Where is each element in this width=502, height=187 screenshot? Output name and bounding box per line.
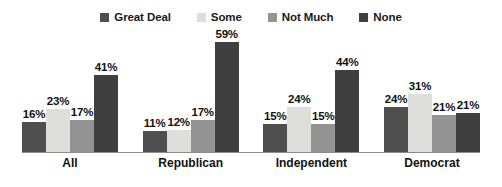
bar-value-label: 17% bbox=[191, 107, 213, 118]
bar-column[interactable]: 15% bbox=[311, 36, 335, 152]
bar-column[interactable]: 44% bbox=[335, 36, 359, 152]
bar[interactable] bbox=[335, 70, 359, 152]
legend-swatch-none bbox=[359, 13, 368, 22]
bar-value-label: 11% bbox=[144, 118, 166, 129]
bar-column[interactable]: 16% bbox=[22, 36, 46, 152]
bar[interactable] bbox=[287, 107, 311, 152]
bar[interactable] bbox=[456, 113, 480, 152]
legend-item-great-deal: Great Deal bbox=[100, 12, 171, 23]
bar-column[interactable]: 21% bbox=[456, 36, 480, 152]
bar-value-label: 24% bbox=[288, 94, 310, 105]
bar[interactable] bbox=[143, 131, 167, 152]
x-axis-label: Democrat bbox=[384, 156, 480, 170]
bar-value-label: 59% bbox=[215, 29, 237, 40]
bar-column[interactable]: 11% bbox=[143, 36, 167, 152]
bar-column[interactable]: 12% bbox=[167, 36, 191, 152]
legend-swatch-great-deal bbox=[100, 13, 109, 22]
legend-label-not-much: Not Much bbox=[282, 12, 334, 23]
legend-swatch-some bbox=[197, 13, 206, 22]
bar[interactable] bbox=[215, 42, 239, 152]
bar-value-label: 24% bbox=[385, 94, 407, 105]
bar-group: 11%12%17%59% bbox=[143, 36, 239, 152]
bar[interactable] bbox=[432, 115, 456, 152]
x-axis-label: Republican bbox=[143, 156, 239, 170]
bar-value-label: 31% bbox=[409, 81, 431, 92]
bar-column[interactable]: 23% bbox=[46, 36, 70, 152]
bar[interactable] bbox=[46, 109, 70, 152]
bar[interactable] bbox=[94, 75, 118, 152]
legend-label-none: None bbox=[373, 12, 401, 23]
bar-column[interactable]: 59% bbox=[215, 36, 239, 152]
bar-column[interactable]: 31% bbox=[408, 36, 432, 152]
bar-value-label: 15% bbox=[264, 111, 286, 122]
legend-item-not-much: Not Much bbox=[268, 12, 334, 23]
bar[interactable] bbox=[311, 124, 335, 152]
bar-chart: Great Deal Some Not Much None 16%23%17%4… bbox=[0, 0, 502, 187]
bar-value-label: 16% bbox=[23, 109, 45, 120]
bar-value-label: 44% bbox=[336, 57, 358, 68]
legend-label-some: Some bbox=[211, 12, 242, 23]
bar-groups: 16%23%17%41%11%12%17%59%15%24%15%44%24%3… bbox=[22, 36, 480, 152]
bar-group: 16%23%17%41% bbox=[22, 36, 118, 152]
x-axis-label: Independent bbox=[263, 156, 359, 170]
bar-column[interactable]: 24% bbox=[384, 36, 408, 152]
bar-column[interactable]: 24% bbox=[287, 36, 311, 152]
legend-item-none: None bbox=[359, 12, 401, 23]
bar[interactable] bbox=[408, 94, 432, 152]
x-axis-label: All bbox=[22, 156, 118, 170]
bar[interactable] bbox=[384, 107, 408, 152]
bar-value-label: 21% bbox=[433, 102, 455, 113]
legend-label-great-deal: Great Deal bbox=[114, 12, 171, 23]
bar-value-label: 15% bbox=[312, 111, 334, 122]
bar-value-label: 12% bbox=[167, 117, 189, 128]
bar-value-label: 21% bbox=[457, 100, 479, 111]
legend-item-some: Some bbox=[197, 12, 242, 23]
bar-column[interactable]: 21% bbox=[432, 36, 456, 152]
plot-area: 16%23%17%41%11%12%17%59%15%24%15%44%24%3… bbox=[22, 36, 480, 152]
bar-group: 15%24%15%44% bbox=[263, 36, 359, 152]
bar-column[interactable]: 17% bbox=[191, 36, 215, 152]
bar[interactable] bbox=[70, 120, 94, 152]
bar-value-label: 17% bbox=[71, 107, 93, 118]
bar-value-label: 41% bbox=[95, 62, 117, 73]
bar[interactable] bbox=[191, 120, 215, 152]
legend-swatch-not-much bbox=[268, 13, 277, 22]
bar-group: 24%31%21%21% bbox=[384, 36, 480, 152]
chart-legend: Great Deal Some Not Much None bbox=[0, 12, 502, 23]
bar-column[interactable]: 15% bbox=[263, 36, 287, 152]
x-axis-line bbox=[22, 152, 480, 153]
bar-value-label: 23% bbox=[47, 96, 69, 107]
x-axis-category-labels: AllRepublicanIndependentDemocrat bbox=[22, 156, 480, 170]
bar-column[interactable]: 41% bbox=[94, 36, 118, 152]
bar[interactable] bbox=[167, 130, 191, 152]
bar[interactable] bbox=[22, 122, 46, 152]
bar[interactable] bbox=[263, 124, 287, 152]
bar-column[interactable]: 17% bbox=[70, 36, 94, 152]
